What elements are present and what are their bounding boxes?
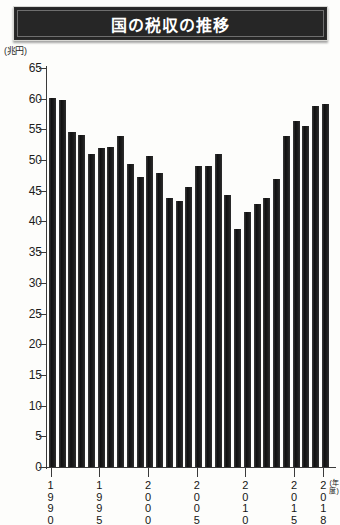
x-axis-tick-label: 2018 bbox=[316, 480, 330, 525]
bar bbox=[68, 132, 75, 467]
y-axis-tick bbox=[39, 129, 47, 130]
bar bbox=[98, 148, 105, 467]
bar bbox=[244, 212, 251, 467]
x-axis-tick bbox=[99, 468, 100, 477]
bar bbox=[312, 106, 319, 467]
bar bbox=[49, 98, 56, 467]
bar bbox=[224, 195, 231, 467]
x-axis-tick bbox=[245, 468, 246, 477]
y-axis-tick bbox=[39, 68, 47, 69]
bar bbox=[293, 121, 300, 467]
bar bbox=[127, 164, 134, 467]
y-axis-tick bbox=[39, 436, 47, 437]
bar bbox=[176, 201, 183, 467]
bar bbox=[137, 177, 144, 467]
page-title: 国の税収の推移 bbox=[111, 12, 230, 36]
y-axis-tick bbox=[39, 375, 47, 376]
bar bbox=[107, 147, 114, 467]
x-axis-tick bbox=[197, 468, 198, 477]
x-axis-tick bbox=[323, 468, 324, 477]
chart-title-banner: 国の税収の推移 bbox=[13, 6, 328, 41]
bar bbox=[166, 198, 173, 467]
bar bbox=[59, 100, 66, 467]
bar bbox=[302, 126, 309, 467]
y-axis-tick bbox=[39, 283, 47, 284]
y-axis-tick bbox=[39, 406, 47, 407]
x-axis-unit-label: (年度) bbox=[329, 479, 338, 494]
bar-series bbox=[47, 68, 335, 467]
y-axis-tick bbox=[39, 191, 47, 192]
bar bbox=[263, 198, 270, 467]
bar bbox=[146, 156, 153, 467]
x-axis-tick-label: 2010 bbox=[238, 480, 252, 525]
x-axis-labels: 1990199520002005201020152018(年度) bbox=[46, 468, 340, 525]
y-axis-tick bbox=[39, 221, 47, 222]
bar bbox=[88, 154, 95, 467]
bar bbox=[322, 104, 329, 467]
y-axis-tick bbox=[39, 344, 47, 345]
bar bbox=[195, 166, 202, 467]
bar bbox=[185, 187, 192, 467]
bar bbox=[215, 154, 222, 467]
x-axis-tick bbox=[51, 468, 52, 477]
bar bbox=[117, 136, 124, 467]
bar bbox=[234, 229, 241, 467]
bar bbox=[254, 204, 261, 467]
y-axis-tick bbox=[39, 252, 47, 253]
y-axis-tick bbox=[39, 160, 47, 161]
x-axis-tick bbox=[148, 468, 149, 477]
x-axis-tick-label: 2015 bbox=[287, 480, 301, 525]
x-axis-tick-label: 2000 bbox=[141, 480, 155, 525]
bar bbox=[78, 135, 85, 467]
x-axis-tick-label: 1990 bbox=[44, 480, 58, 525]
x-axis-tick-label: 2005 bbox=[190, 480, 204, 525]
y-axis-tick bbox=[39, 99, 47, 100]
bar bbox=[273, 179, 280, 468]
y-axis-labels: 65605550454035302520151050 bbox=[0, 0, 42, 525]
bar bbox=[156, 173, 163, 467]
bar bbox=[205, 166, 212, 467]
bar bbox=[283, 136, 290, 467]
y-axis-tick bbox=[39, 314, 47, 315]
x-axis-tick-label: 1995 bbox=[92, 480, 106, 525]
x-axis-tick bbox=[294, 468, 295, 477]
